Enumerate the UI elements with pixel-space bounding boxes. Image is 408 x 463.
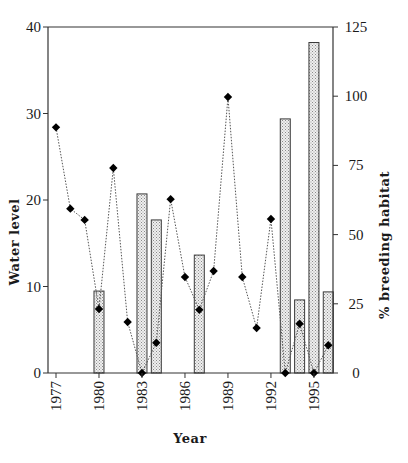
bar	[280, 119, 290, 373]
right-tick-label: 25	[349, 296, 364, 312]
x-tick-label: 1995	[306, 381, 322, 411]
bar	[309, 43, 319, 373]
diamond-marker	[252, 324, 260, 332]
x-axis: 1977198019831986198919921995	[48, 373, 322, 411]
right-axis-title: % breeding habitat	[377, 171, 392, 319]
diamond-marker	[166, 195, 174, 203]
x-axis-title: Year	[172, 431, 207, 446]
left-tick-label: 30	[26, 106, 41, 122]
left-tick-label: 0	[34, 365, 42, 381]
left-axis-title: Water level	[7, 198, 22, 286]
bar	[94, 291, 104, 373]
bar	[151, 220, 161, 373]
diamond-marker	[267, 215, 275, 223]
left-tick-label: 20	[26, 192, 41, 208]
x-tick-label: 1980	[91, 381, 107, 411]
right-tick-label: 0	[352, 365, 360, 381]
right-tick-label: 125	[345, 19, 368, 35]
diamond-marker	[224, 93, 232, 101]
x-tick-label: 1983	[134, 381, 150, 411]
diamond-marker	[109, 164, 117, 172]
x-tick-label: 1989	[220, 381, 236, 411]
right-tick-label: 75	[349, 157, 364, 173]
right-tick-label: 100	[345, 88, 368, 104]
diamond-marker	[123, 318, 131, 326]
dual-axis-chart: 010203040 0255075100125 1977198019831986…	[0, 0, 408, 463]
diamond-marker	[66, 204, 74, 212]
left-tick-label: 40	[26, 19, 41, 35]
left-axis: 010203040	[26, 19, 48, 381]
bar	[323, 292, 333, 373]
diamond-marker	[238, 273, 246, 281]
diamond-marker	[209, 267, 217, 275]
bar	[137, 194, 147, 373]
x-tick-label: 1977	[48, 381, 64, 412]
left-tick-label: 10	[26, 279, 41, 295]
right-tick-label: 50	[349, 227, 364, 243]
right-axis: 0255075100125	[333, 19, 367, 381]
diamond-marker	[52, 123, 60, 131]
x-tick-label: 1986	[177, 381, 193, 412]
diamond-marker	[181, 273, 189, 281]
x-tick-label: 1992	[263, 381, 279, 411]
